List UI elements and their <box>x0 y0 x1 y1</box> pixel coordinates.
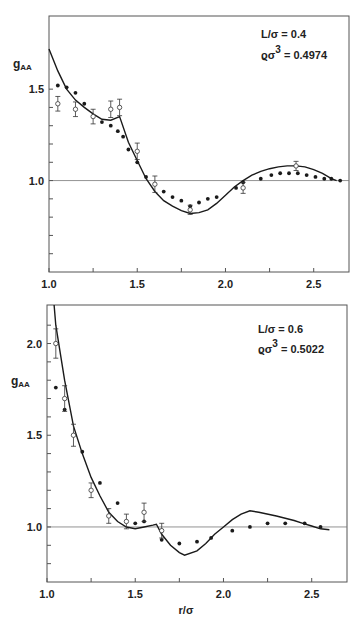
data-point-filled <box>248 525 252 529</box>
y-axis-label-top: gAA <box>13 57 32 72</box>
data-point-open <box>153 182 157 186</box>
data-point-open <box>109 107 113 111</box>
data-point-filled <box>259 177 263 181</box>
x-tick-label: 1.0 <box>41 278 56 290</box>
data-point-filled <box>314 175 318 179</box>
data-point-open <box>135 149 139 153</box>
panel-bottom: 1.01.52.02.51.01.52.0 gAA L/σ = 0.6 ϱσ3 … <box>11 305 347 616</box>
annotation-line2-bottom: ϱσ3 = 0.5022 <box>258 338 324 355</box>
data-point-open <box>241 186 245 190</box>
data-point-filled <box>296 171 300 175</box>
data-point-filled <box>197 201 201 205</box>
data-point-filled <box>135 160 139 164</box>
x-tick-label: 2.5 <box>306 278 321 290</box>
data-point-open <box>54 341 58 345</box>
data-point-filled <box>287 171 291 175</box>
data-point-filled <box>319 525 323 529</box>
data-point-filled <box>121 135 125 139</box>
x-tick-label: 1.5 <box>128 588 143 600</box>
data-point-filled <box>305 173 309 177</box>
data-point-open <box>89 488 93 492</box>
data-point-filled <box>109 124 113 128</box>
open-points-bottom <box>53 329 164 538</box>
data-point-filled <box>266 521 270 525</box>
data-point-filled <box>171 195 175 199</box>
data-point-open <box>71 433 75 437</box>
data-point-open <box>294 164 298 168</box>
y-tick-label: 2.0 <box>27 338 42 350</box>
y-tick-label: 1.5 <box>27 429 42 441</box>
data-point-open <box>160 528 164 532</box>
data-point-filled <box>74 91 78 95</box>
data-point-filled <box>162 190 166 194</box>
x-axis-label: r/σ <box>179 604 194 616</box>
data-point-filled <box>80 450 84 454</box>
data-point-filled <box>127 148 131 152</box>
open-points-top <box>55 96 298 214</box>
x-tick-label: 2.0 <box>218 278 233 290</box>
data-point-open <box>117 105 121 109</box>
data-point-filled <box>54 386 58 390</box>
tick-labels-bottom: 1.01.52.02.51.01.52.0 <box>27 338 320 600</box>
data-point-filled <box>338 179 342 183</box>
y-axis-label-bottom: gAA <box>11 374 30 389</box>
data-point-filled <box>98 481 102 485</box>
data-point-filled <box>329 177 333 181</box>
panel-top: 1.01.52.02.51.01.5 gAA L/σ = 0.4 ϱσ3 = 0… <box>13 16 349 290</box>
data-point-filled <box>116 501 120 505</box>
y-tick-label: 1.0 <box>29 175 44 187</box>
data-point-filled <box>269 173 273 177</box>
data-point-filled <box>283 521 287 525</box>
data-point-filled <box>179 199 183 203</box>
data-point-open <box>73 107 77 111</box>
data-point-filled <box>82 102 86 106</box>
data-point-open <box>62 396 66 400</box>
filled-points-top <box>56 84 342 208</box>
data-point-filled <box>230 529 234 533</box>
x-tick-label: 2.5 <box>304 588 319 600</box>
annotation-line1-top: L/σ = 0.4 <box>261 28 307 40</box>
data-point-filled <box>278 171 282 175</box>
theory-curve-top <box>49 49 337 214</box>
data-point-open <box>142 510 146 514</box>
x-tick-label: 1.0 <box>39 588 54 600</box>
tick-labels-top: 1.01.52.02.51.01.5 <box>29 83 322 290</box>
data-point-filled <box>322 177 326 181</box>
data-point-filled <box>116 129 120 133</box>
filled-points-bottom <box>54 386 323 546</box>
data-point-filled <box>195 540 199 544</box>
figure: 1.01.52.02.51.01.5 gAA L/σ = 0.4 ϱσ3 = 0… <box>0 0 363 631</box>
data-point-open <box>188 208 192 212</box>
data-point-filled <box>303 521 307 525</box>
data-point-filled <box>234 186 238 190</box>
x-tick-label: 1.5 <box>130 278 145 290</box>
data-point-open <box>91 114 95 118</box>
data-point-filled <box>56 84 60 88</box>
data-point-filled <box>177 542 181 546</box>
data-point-filled <box>206 197 210 201</box>
data-point-filled <box>215 195 219 199</box>
data-point-open <box>107 514 111 518</box>
data-point-open <box>56 102 60 106</box>
data-point-open <box>124 519 128 523</box>
data-point-filled <box>133 521 137 525</box>
data-point-filled <box>144 175 148 179</box>
data-point-filled <box>100 120 104 124</box>
data-point-filled <box>209 536 213 540</box>
annotation-line2-top: ϱσ3 = 0.4974 <box>261 44 328 61</box>
annotation-line1-bottom: L/σ = 0.6 <box>258 323 303 335</box>
y-tick-label: 1.5 <box>29 83 44 95</box>
data-point-filled <box>160 538 164 542</box>
y-tick-label: 1.0 <box>27 521 42 533</box>
data-point-filled <box>65 85 69 89</box>
x-tick-label: 2.0 <box>216 588 231 600</box>
